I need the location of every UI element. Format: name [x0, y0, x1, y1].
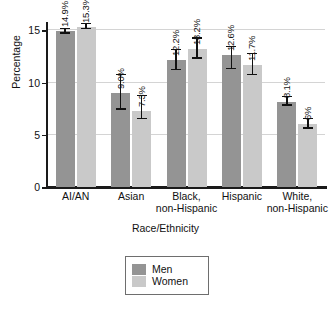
y-axis-tick-label: 15 [0, 24, 40, 36]
legend-label-women: Women [152, 276, 188, 287]
bar-men: 12.2% [167, 22, 186, 187]
error-bar-cap-lower [116, 108, 126, 110]
x-axis-category-label: White,non-Hispanic [250, 191, 331, 214]
bar-value-label: 15.3% [81, 0, 91, 23]
x-axis-title: Race/Ethnicity [0, 222, 331, 234]
error-bar-cap-upper [60, 28, 70, 30]
bar-rect [243, 65, 262, 187]
legend-item-men: Men [132, 264, 202, 275]
bar-rect [188, 49, 207, 187]
bar-value-label: 9.0% [116, 35, 126, 89]
bar-rect [222, 55, 241, 187]
y-axis-tick-label: 10 [0, 77, 40, 89]
error-bar-cap-lower [282, 104, 292, 106]
plot-area: 14.9%15.3%9.0%7.3%12.2%13.2%12.6%11.7%8.… [48, 22, 325, 187]
error-bar-cap-lower [247, 74, 257, 76]
error-bar-cap-lower [303, 127, 313, 129]
bar-rect [77, 27, 96, 187]
y-axis-title: Percentage [10, 2, 22, 122]
bar-value-label: 6% [303, 66, 313, 120]
bar-women: 13.2% [188, 22, 207, 187]
legend-swatch-women [132, 276, 146, 287]
bar-women: 7.3% [132, 22, 151, 187]
bar-value-label: 8.1% [282, 44, 292, 98]
bar-chart: Percentage 051015 14.9%15.3%9.0%7.3%12.2… [0, 0, 331, 317]
bar-value-label: 14.9% [60, 0, 70, 27]
bar-men: 12.6% [222, 22, 241, 187]
error-bar-cap-lower [60, 32, 70, 34]
bar-men: 14.9% [56, 22, 75, 187]
error-bar-cap-lower [81, 28, 91, 30]
error-bar-cap-lower [137, 118, 147, 120]
bar-women: 6% [298, 22, 317, 187]
bar-value-label: 11.7% [247, 7, 257, 61]
error-bar-cap-lower [226, 68, 236, 70]
bar-value-label: 12.6% [226, 0, 236, 51]
error-bar-cap-lower [171, 69, 181, 71]
bar-men: 9.0% [111, 22, 130, 187]
bar-value-label: 12.2% [171, 2, 181, 56]
legend-swatch-men [132, 264, 146, 275]
legend-item-women: Women [132, 276, 202, 287]
bar-value-label: 13.2% [192, 0, 202, 45]
bar-rect [132, 111, 151, 187]
bar-value-label: 7.3% [137, 53, 147, 107]
bar-women: 11.7% [243, 22, 262, 187]
bar-rect [298, 124, 317, 187]
y-axis-tick-label: 5 [0, 129, 40, 141]
bar-men: 8.1% [277, 22, 296, 187]
bar-rect [167, 60, 186, 187]
legend: Men Women [125, 256, 209, 295]
bar-rect [56, 31, 75, 187]
bar-women: 15.3% [77, 22, 96, 187]
legend-label-men: Men [152, 264, 172, 275]
bar-rect [277, 102, 296, 187]
error-bar-cap-lower [192, 57, 202, 59]
